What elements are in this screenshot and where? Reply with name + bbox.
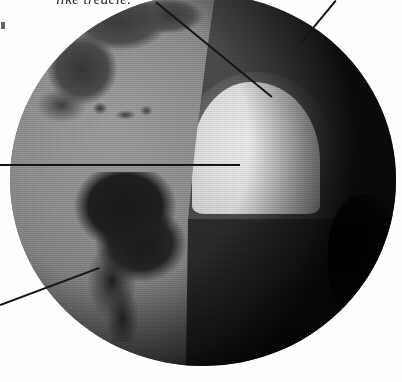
limb-shadow <box>10 0 396 366</box>
limb-dark-crescent <box>328 194 396 314</box>
figure-canvas: like treacle. <box>0 0 402 382</box>
earth-globe <box>10 0 396 366</box>
horizontal-leader <box>0 164 240 166</box>
globe-disc <box>10 0 396 366</box>
page-edge-speck <box>1 22 5 29</box>
